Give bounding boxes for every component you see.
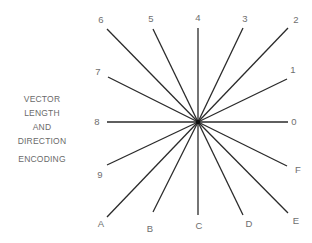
vector-line-d <box>198 122 243 215</box>
vector-line-6 <box>107 29 198 122</box>
vector-line-b <box>153 122 198 212</box>
vector-label-d: D <box>246 218 253 229</box>
vector-line-e <box>198 122 288 213</box>
vector-label-4: 4 <box>195 12 200 23</box>
vector-label-0: 0 <box>291 116 296 127</box>
vector-line-7 <box>108 77 198 122</box>
vector-label-5: 5 <box>148 13 153 24</box>
vector-label-f: F <box>295 164 301 175</box>
vector-line-3 <box>198 28 243 122</box>
vector-label-8: 8 <box>94 116 99 127</box>
vector-label-c: C <box>196 220 203 231</box>
vector-label-6: 6 <box>98 14 103 25</box>
vector-line-f <box>198 122 287 166</box>
vector-label-9: 9 <box>97 169 102 180</box>
vector-star-diagram: 0123456789ABCDEF <box>0 0 312 243</box>
vector-line-5 <box>153 29 198 122</box>
vector-label-a: A <box>98 218 105 229</box>
vector-label-7: 7 <box>95 66 100 77</box>
vector-label-e: E <box>293 215 299 226</box>
vector-label-2: 2 <box>293 14 298 25</box>
center-point <box>196 120 200 124</box>
vector-label-b: B <box>147 223 153 234</box>
vector-line-1 <box>198 79 287 122</box>
vector-label-1: 1 <box>290 64 295 75</box>
vector-line-2 <box>198 28 288 122</box>
vector-label-3: 3 <box>242 13 247 24</box>
vector-line-a <box>107 122 198 217</box>
vector-line-9 <box>107 122 198 165</box>
